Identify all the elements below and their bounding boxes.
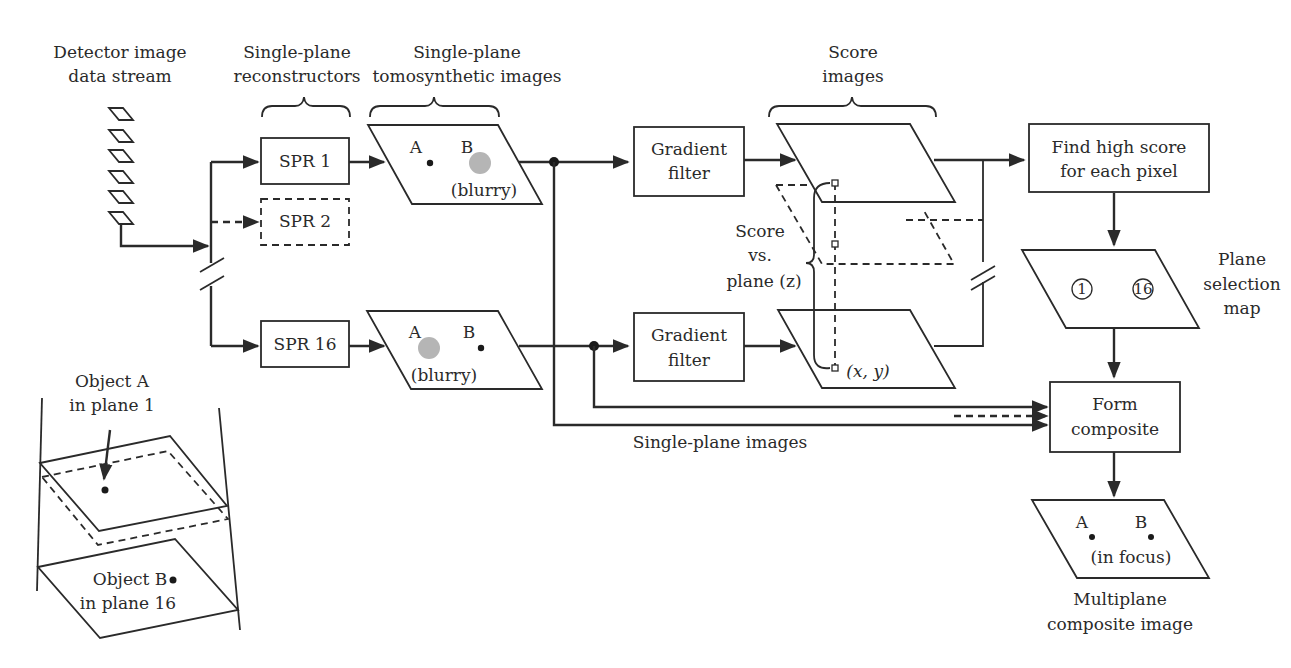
gradient-top-line2: filter [668, 163, 711, 183]
inset-object-b-line1: Object B [93, 569, 167, 589]
probe-marker-top [832, 180, 838, 186]
header-score-line2: images [822, 66, 883, 86]
header-tomo-line1: Single-plane [413, 42, 521, 62]
header-reconstructors-line2: reconstructors [234, 66, 361, 86]
score-image-top [777, 124, 955, 202]
tomo-image-plane16: A B (blurry) [367, 311, 542, 389]
brace-tomosynthetic [370, 97, 499, 117]
plane-selection-line1: Plane [1218, 249, 1266, 269]
score-annotation-line1: Score [735, 221, 785, 241]
find-high-score-line2: for each pixel [1060, 161, 1178, 181]
composite-caption-line2: composite image [1047, 614, 1193, 634]
header-tomo-line2: tomosynthetic images [372, 66, 561, 86]
brace-reconstructors [262, 97, 350, 117]
gradient-bottom-line1: Gradient [651, 325, 727, 345]
find-high-score-line1: Find high score [1052, 137, 1187, 157]
inset-object-planes: Object A in plane 1 Object B in plane 16 [37, 371, 240, 638]
probe-marker-mid [832, 241, 838, 247]
brace-score-images [769, 97, 936, 117]
single-plane-line-1 [554, 162, 1047, 425]
tomo-bottom-note: (blurry) [411, 365, 477, 385]
detector-frames-stack [109, 108, 133, 224]
inset-object-a-line2: in plane 1 [69, 395, 154, 415]
composite-label-a: A [1075, 512, 1089, 532]
gradient-bottom-line2: filter [668, 350, 711, 370]
header-detector-line2: data stream [68, 66, 171, 86]
header-detector: Detector image data stream [53, 42, 186, 86]
find-high-score-box: Find high score for each pixel [1029, 124, 1209, 192]
gradient-filter-bottom: Gradient filter [634, 313, 744, 381]
tomo-top-label-a: A [409, 137, 423, 157]
header-tomosynthetic: Single-plane tomosynthetic images [370, 42, 562, 117]
spr1-box: SPR 1 [261, 138, 349, 184]
plane-16-label: 16 [1133, 280, 1152, 298]
plane-1-label: 1 [1077, 280, 1087, 298]
spr16-label: SPR 16 [274, 334, 337, 354]
tomo-bottom-label-b: B [463, 322, 476, 342]
form-composite-line2: composite [1071, 419, 1159, 439]
form-composite-box: Form composite [1050, 382, 1180, 452]
single-plane-images-label: Single-plane images [633, 432, 807, 452]
coord-label: (x, y) [846, 361, 889, 381]
header-reconstructors-line1: Single-plane [243, 42, 351, 62]
spr16-box: SPR 16 [261, 321, 349, 367]
form-composite-line1: Form [1092, 394, 1137, 414]
score-annotation-line2: vs. [747, 245, 772, 265]
header-score-line1: Score [828, 42, 878, 62]
tomo-image-plane1: A B (blurry) [368, 125, 542, 204]
inset-object-b-line2: in plane 16 [80, 593, 176, 613]
composite-note: (in focus) [1091, 547, 1172, 567]
detector-output-line [121, 224, 208, 246]
composite-caption-line1: Multiplane [1073, 589, 1167, 609]
plane-selection-line2: selection [1203, 274, 1280, 294]
gradient-top-line1: Gradient [651, 139, 727, 159]
header-score-images: Score images [769, 42, 936, 117]
probe-marker-bottom [832, 365, 838, 371]
score-annotation-line3: plane (z) [726, 271, 801, 291]
spr1-label: SPR 1 [279, 151, 331, 171]
header-reconstructors: Single-plane reconstructors [234, 42, 361, 117]
header-detector-line1: Detector image [53, 42, 186, 62]
tomo-bottom-label-a: A [408, 322, 422, 342]
inset-object-a-line1: Object A [75, 371, 150, 391]
tomo-top-label-b: B [461, 137, 474, 157]
spr2-box: SPR 2 [261, 199, 349, 245]
plane-selection-line3: map [1223, 298, 1260, 318]
tomosynthesis-flow-diagram: Detector image data stream Single-plane … [0, 0, 1291, 668]
arrow-to-object-a [104, 430, 110, 479]
multiplane-composite-image: A B (in focus) Multiplane composite imag… [1032, 500, 1209, 634]
plane-selection-map: 1 16 Plane selection map [1022, 249, 1281, 328]
composite-label-b: B [1135, 512, 1148, 532]
spr2-label: SPR 2 [279, 211, 331, 231]
tomo-top-note: (blurry) [451, 180, 517, 200]
gradient-filter-top: Gradient filter [634, 127, 744, 196]
collector-line-lower [934, 282, 983, 346]
